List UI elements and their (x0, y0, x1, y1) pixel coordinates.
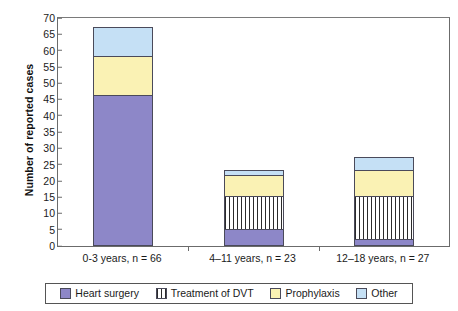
y-axis-tick-mark (58, 246, 62, 247)
bar-segment-other (224, 170, 284, 176)
y-axis-tick: 65 (43, 29, 58, 40)
y-axis-tick-label: 20 (43, 176, 58, 187)
y-axis-tick-mark (58, 164, 62, 165)
x-axis-tick-mark (188, 246, 189, 251)
y-axis-tick: 5 (49, 224, 58, 235)
y-axis-tick: 60 (43, 45, 58, 56)
legend-item[interactable]: Heart surgery (60, 288, 139, 299)
swatch-blue-icon (356, 288, 367, 299)
y-axis-tick: 30 (43, 143, 58, 154)
x-axis-category-label: 0-3 years, n = 66 (57, 252, 187, 264)
y-axis-tick-mark (58, 50, 62, 51)
y-axis-tick-label: 30 (43, 143, 58, 154)
y-axis-tick: 25 (43, 159, 58, 170)
y-axis-tick: 70 (43, 13, 58, 24)
y-axis-tick-mark (58, 66, 62, 67)
legend-item[interactable]: Other (356, 288, 397, 299)
bar-segment-prophylaxis (224, 175, 284, 197)
y-axis-tick: 55 (43, 62, 58, 73)
y-axis-tick-mark (58, 132, 62, 133)
y-axis-tick-label: 25 (43, 159, 58, 170)
y-axis-tick-mark (58, 34, 62, 35)
y-axis-title: Number of reported cases (23, 35, 35, 225)
legend-label: Heart surgery (75, 288, 139, 299)
legend-item[interactable]: Prophylaxis (270, 288, 339, 299)
legend-label: Prophylaxis (285, 288, 339, 299)
y-axis-tick-label: 0 (49, 241, 58, 252)
y-axis-tick-mark (58, 180, 62, 181)
bar-segment-heart-surgery (93, 95, 153, 246)
y-axis-tick-label: 10 (43, 208, 58, 219)
y-axis-tick: 40 (43, 110, 58, 121)
y-axis-tick-label: 55 (43, 62, 58, 73)
plot-frame: 0510152025303540455055606570 (57, 17, 450, 247)
bar-segment-treatment-of-dvt (354, 196, 414, 239)
swatch-striped-icon (156, 288, 167, 299)
plot-area: 0510152025303540455055606570 (58, 18, 449, 246)
y-axis-tick-mark (58, 148, 62, 149)
x-axis-category-label: 4–11 years, n = 23 (187, 252, 317, 264)
bar-segment-prophylaxis (354, 170, 414, 197)
y-axis-tick-mark (58, 115, 62, 116)
y-axis-tick-label: 60 (43, 45, 58, 56)
y-axis-tick-label: 5 (49, 224, 58, 235)
y-axis-tick-label: 40 (43, 110, 58, 121)
bar-stack (224, 18, 284, 246)
y-axis-tick-mark (58, 229, 62, 230)
bar-stack (93, 18, 153, 246)
y-axis-tick-mark (58, 18, 62, 19)
y-axis-tick: 20 (43, 176, 58, 187)
bar-segment-treatment-of-dvt (224, 196, 284, 230)
bar-segment-prophylaxis (93, 56, 153, 96)
legend-label: Other (371, 288, 397, 299)
y-axis-tick-label: 35 (43, 127, 58, 138)
y-axis-tick: 35 (43, 127, 58, 138)
y-axis-tick: 45 (43, 94, 58, 105)
y-axis-tick: 10 (43, 208, 58, 219)
swatch-yellow-icon (270, 288, 281, 299)
chart-legend: Heart surgeryTreatment of DVTProphylaxis… (45, 283, 413, 304)
bar-stack (354, 18, 414, 246)
y-axis-tick-label: 45 (43, 94, 58, 105)
y-axis-tick-label: 70 (43, 13, 58, 24)
bar-segment-heart-surgery (354, 239, 414, 247)
x-axis-tick-mark (319, 246, 320, 251)
y-axis-tick-mark (58, 197, 62, 198)
legend-item[interactable]: Treatment of DVT (156, 288, 254, 299)
stacked-bar-chart: Number of reported cases 051015202530354… (0, 0, 458, 311)
y-axis-tick-mark (58, 83, 62, 84)
y-axis-tick-label: 50 (43, 78, 58, 89)
bar-segment-other (354, 157, 414, 171)
y-axis-tick: 0 (49, 241, 58, 252)
y-axis-tick-label: 65 (43, 29, 58, 40)
legend-label: Treatment of DVT (171, 288, 254, 299)
bar-segment-other (93, 27, 153, 57)
y-axis-tick: 15 (43, 192, 58, 203)
bar-segment-heart-surgery (224, 229, 284, 246)
swatch-purple-icon (60, 288, 71, 299)
x-axis-category-label: 12–18 years, n = 27 (318, 252, 448, 264)
y-axis-tick: 50 (43, 78, 58, 89)
y-axis-tick-label: 15 (43, 192, 58, 203)
y-axis-tick-mark (58, 213, 62, 214)
y-axis-tick-mark (58, 99, 62, 100)
